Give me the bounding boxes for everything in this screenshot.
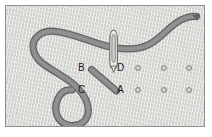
figure-container: BDCA: [0, 0, 212, 137]
fabric-hole-dot: [162, 88, 167, 93]
diagram-frame: BDCA: [5, 5, 205, 127]
fabric-hole-dot: [136, 66, 141, 71]
fabric-hole-dot: [187, 66, 192, 71]
point-label-a: A: [117, 85, 124, 95]
stitch-segment-ba: [92, 70, 117, 92]
stitch-ba-highlight: [93, 71, 116, 91]
fabric-hole-dot: [162, 66, 167, 71]
dot-grid: [136, 66, 192, 93]
fabric-hole-dot: [136, 88, 141, 93]
stitch-illustration: [6, 6, 205, 127]
point-label-c: C: [78, 85, 85, 95]
point-label-d: D: [117, 63, 124, 73]
needle-eye: [112, 35, 115, 63]
needle-point: [111, 66, 115, 73]
fabric-hole-dot: [187, 88, 192, 93]
point-label-b: B: [78, 63, 85, 73]
